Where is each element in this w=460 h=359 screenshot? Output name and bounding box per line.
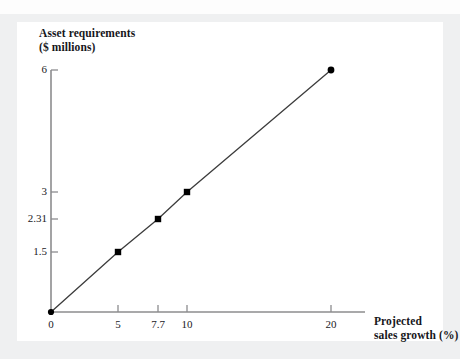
x-tick-label-20: 20	[317, 318, 345, 330]
page-top-strip	[0, 0, 460, 14]
x-tick-label-5: 5	[104, 318, 132, 330]
x-tick-label-7-7: 7.7	[144, 318, 172, 330]
x-axis-title: Projected sales growth (%)	[374, 314, 458, 342]
x-tick-label-10: 10	[173, 318, 201, 330]
chart-plot-area	[17, 22, 443, 341]
y-axis-title-line1: Asset requirements	[39, 26, 135, 40]
data-point-marker	[155, 216, 161, 222]
y-tick-label-2-31: 2.31	[17, 212, 47, 224]
data-point-marker	[328, 67, 335, 74]
y-tick-marks	[51, 70, 58, 252]
data-point-marker	[184, 189, 190, 195]
data-series-line	[51, 70, 331, 312]
x-axis-title-line1: Projected	[374, 314, 458, 328]
y-tick-label-3: 3	[17, 185, 47, 197]
data-point-marker	[115, 249, 121, 255]
y-axis-title-line2: ($ millions)	[39, 40, 135, 54]
y-axis-title: Asset requirements ($ millions)	[39, 26, 135, 54]
x-tick-label-0: 0	[37, 318, 65, 330]
x-axis-title-line2: sales growth (%)	[374, 328, 458, 342]
chart-figure-card: Asset requirements ($ millions) Projecte…	[17, 22, 443, 341]
x-tick-marks	[118, 305, 331, 312]
y-tick-label-6: 6	[17, 63, 47, 75]
data-point-marker	[48, 309, 54, 315]
y-tick-label-1-5: 1.5	[17, 245, 47, 257]
